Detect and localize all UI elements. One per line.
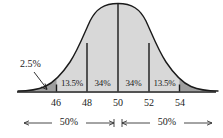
x-tick-label-48: 48 xyxy=(77,98,97,108)
span-label-50-percent-left: 50% xyxy=(52,117,86,127)
tail-callout-leader-line xyxy=(34,72,47,89)
distribution-chart xyxy=(0,0,223,138)
region-label-tail-2-5-percent: 2.5% xyxy=(20,59,41,69)
x-tick-label-50: 50 xyxy=(108,98,128,108)
x-tick-label-52: 52 xyxy=(139,98,159,108)
span-label-50-percent-right: 50% xyxy=(150,117,184,127)
region-label-34-percent-left: 34% xyxy=(87,79,118,88)
x-tick-label-46: 46 xyxy=(46,98,66,108)
normal-curve-figure: 2.5% 13.5% 34% 34% 13.5% 46 48 50 52 54 … xyxy=(0,0,223,138)
region-label-13-5-percent-left: 13.5% xyxy=(57,79,87,88)
region-label-13-5-percent-right: 13.5% xyxy=(149,79,180,88)
x-tick-label-54: 54 xyxy=(170,98,190,108)
region-label-34-percent-right: 34% xyxy=(118,79,149,88)
